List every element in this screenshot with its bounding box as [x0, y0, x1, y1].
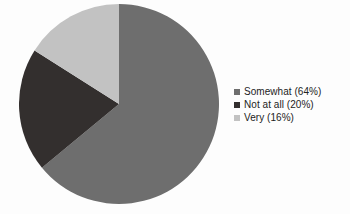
legend-label-not-at-all: Not at all (20%) [244, 99, 314, 110]
pie-svg [19, 4, 219, 204]
legend-item-somewhat[interactable]: Somewhat (64%) [234, 85, 346, 98]
legend-swatch-icon-somewhat [234, 89, 240, 95]
legend-label-somewhat: Somewhat (64%) [244, 86, 321, 97]
legend-item-very[interactable]: Very (16%) [234, 111, 346, 124]
legend-item-not-at-all[interactable]: Not at all (20%) [234, 98, 346, 111]
legend-swatch-icon-not-at-all [234, 102, 240, 108]
legend-swatch-icon-very [234, 115, 240, 121]
pie-figure [19, 4, 219, 204]
chart-legend: Somewhat (64%) Not at all (20%) Very (16… [234, 85, 346, 124]
pie-chart: Somewhat (64%) Not at all (20%) Very (16… [0, 0, 350, 214]
legend-label-very: Very (16%) [244, 112, 294, 123]
